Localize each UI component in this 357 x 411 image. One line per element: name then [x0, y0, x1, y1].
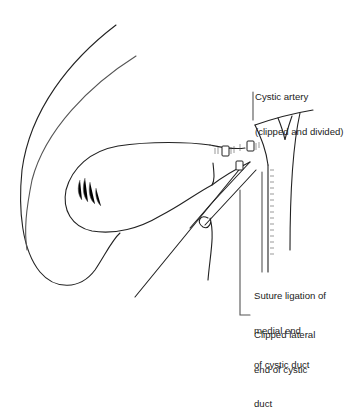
label-cystic-artery: Cystic artery (clipped and divided): [255, 68, 344, 149]
clip-duct-lateral: [236, 161, 243, 170]
forceps-shaft-3: [205, 170, 256, 225]
suture-thread: [199, 217, 212, 280]
leader-clipped: [240, 190, 250, 315]
hatch-duct: [270, 170, 274, 254]
liver-edge-outer: [21, 25, 120, 285]
clip-artery-1: [222, 146, 229, 156]
clip-artery-2: [247, 141, 254, 151]
forceps-shaft-1: [135, 165, 243, 297]
gallbladder: [65, 143, 214, 233]
forceps-shaft-2: [190, 162, 250, 228]
label-clipped-lateral: Clipped lateral end of cystic duct: [254, 306, 315, 411]
cystic-duct-lower: [212, 162, 250, 185]
liver-edge-inner: [26, 56, 136, 250]
hatch-gallbladder: [78, 178, 101, 206]
